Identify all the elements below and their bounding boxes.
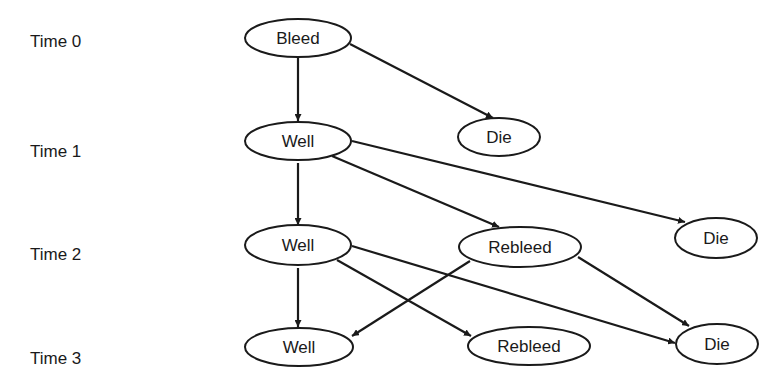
node-label: Bleed [276,29,319,48]
node-rebleed-t3: Rebleed [468,327,590,365]
node-die-t0: Die [458,118,540,156]
node-label: Well [283,338,316,357]
node-label: Well [282,132,315,151]
edge-rebleed-t2-to-die-t3 [578,257,689,326]
edge-well-t1-to-rebleed-t2 [332,156,499,227]
time-label-1: Time 1 [30,142,81,161]
state-transition-diagram: Time 0 Time 1 Time 2 Time 3 Bleed Die We… [0,0,779,391]
node-label: Die [703,229,729,248]
time-label-0: Time 0 [30,32,81,51]
edge-well-t2-to-rebleed-t3 [337,260,471,336]
node-label: Die [704,335,730,354]
node-label: Well [282,236,315,255]
node-label: Rebleed [497,337,560,356]
node-well-t1: Well [245,122,351,160]
node-rebleed-t2: Rebleed [459,227,581,267]
node-die-t3: Die [676,324,758,364]
node-die-t1: Die [675,218,757,258]
node-label: Die [486,128,512,147]
node-label: Rebleed [488,238,551,257]
node-well-t3: Well [245,328,353,366]
time-axis-labels: Time 0 Time 1 Time 2 Time 3 [30,32,81,368]
node-bleed-t0: Bleed [245,19,351,57]
time-label-3: Time 3 [30,349,81,368]
edge-bleed-to-die-t0 [350,44,493,118]
edges [298,44,689,343]
time-label-2: Time 2 [30,245,81,264]
node-well-t2: Well [245,225,351,265]
